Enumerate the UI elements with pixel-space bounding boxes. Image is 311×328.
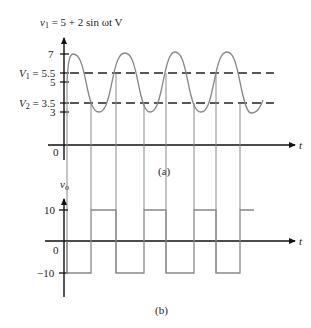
figure-a: v1 = 5 + 2 sin ωt V t 0 7 V1 = 5.5 5 V2 … bbox=[19, 16, 303, 178]
schmitt-trigger-figure: v1 = 5 + 2 sin ωt V t 0 7 V1 = 5.5 5 V2 … bbox=[0, 0, 311, 328]
tick-label-zero: 0 bbox=[53, 244, 59, 256]
tick-label-pos-10: 10 bbox=[44, 204, 56, 216]
origin-label-a: 0 bbox=[53, 146, 59, 158]
caption-a: (a) bbox=[158, 165, 171, 178]
input-waveform bbox=[67, 52, 263, 113]
tick-label-3: 3 bbox=[50, 106, 56, 118]
tick-label-7: 7 bbox=[48, 48, 54, 60]
figure-a-title: v1 = 5 + 2 sin ωt V bbox=[40, 16, 122, 30]
y-axis-label-b: vo bbox=[60, 178, 69, 192]
tick-label-5: 5 bbox=[50, 76, 56, 88]
t-axis-label-a: t bbox=[299, 139, 303, 151]
figure-b: vo t 10 0 −10 (b) bbox=[37, 178, 303, 317]
t-axis-label-b: t bbox=[299, 235, 303, 247]
tick-label-neg-10: −10 bbox=[37, 267, 55, 279]
caption-b: (b) bbox=[155, 304, 168, 317]
